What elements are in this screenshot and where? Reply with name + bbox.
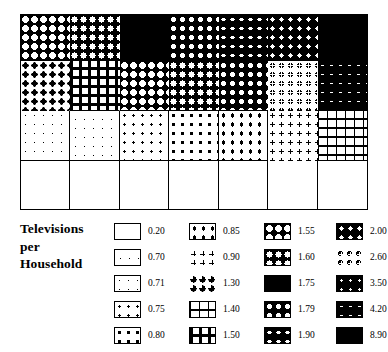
legend-swatch [189,327,216,344]
legend-item: 8.90 [336,322,388,348]
legend-item: 1.55 [264,218,340,244]
map-cell [70,111,119,161]
map-cell [268,111,317,161]
legend-value-label: 1.50 [223,330,240,340]
legend-item: 0.20 [114,218,190,244]
legend-item: 0.80 [114,322,190,348]
map-cell [268,161,317,209]
legend-swatch [264,223,291,240]
legend-item: 0.75 [114,296,190,322]
legend-swatch [264,327,291,344]
legend-value-label: 0.75 [148,304,165,314]
legend-item: 0.90 [189,244,265,270]
legend-value-label: 0.70 [148,252,165,262]
legend-item: 4.20 [336,296,388,322]
legend-swatch [114,223,141,240]
legend-swatch [114,275,141,292]
legend-column-1: 0.850.901.301.401.50 [189,218,265,348]
map-cell [120,161,169,209]
legend-value-label: 1.60 [298,252,315,262]
map-cell [120,61,169,111]
legend-swatch [336,327,363,344]
map-cell [21,161,70,209]
legend-value-label: 1.90 [298,330,315,340]
legend-column-3: 2.002.603.504.208.90 [336,218,388,348]
map-cell [120,111,169,161]
legend-item: 2.60 [336,244,388,270]
legend-item: 0.85 [189,218,265,244]
map-cell [219,15,268,61]
legend-item: 3.50 [336,270,388,296]
legend-value-label: 4.20 [370,304,387,314]
legend-title-line-2: per [20,238,116,256]
legend-item: 1.40 [189,296,265,322]
map-cell [21,15,70,61]
map-cell [318,61,367,111]
legend-swatch [189,275,216,292]
legend-swatch [189,223,216,240]
map-cell [268,61,317,111]
map-cell [318,111,367,161]
legend-item: 1.75 [264,270,340,296]
legend-value-label: 1.55 [298,226,315,236]
legend-swatch [264,275,291,292]
legend-swatch [189,249,216,266]
legend-item: 1.50 [189,322,265,348]
map-cell [318,15,367,61]
legend-value-label: 2.00 [370,226,387,236]
map-cell [268,15,317,61]
legend-item: 1.90 [264,322,340,348]
legend-value-label: 1.75 [298,278,315,288]
legend-item: 1.60 [264,244,340,270]
legend-value-label: 0.85 [223,226,240,236]
legend-value-label: 1.79 [298,304,315,314]
map-cell [70,161,119,209]
legend-title-line-1: Televisions [20,220,116,238]
legend-swatch [114,327,141,344]
legend-value-label: 1.30 [223,278,240,288]
legend-swatch [336,249,363,266]
legend-swatch [114,301,141,318]
figure-root: Televisions per Household 0.200.700.710.… [0,0,388,352]
map-cell [21,61,70,111]
legend-value-label: 2.60 [370,252,387,262]
legend-item: 1.30 [189,270,265,296]
legend-value-label: 0.20 [148,226,165,236]
legend-column-0: 0.200.700.710.750.80 [114,218,190,348]
legend-swatch [264,301,291,318]
map-grid [20,14,368,210]
legend: Televisions per Household 0.200.700.710.… [18,218,378,348]
map-cell [169,15,218,61]
legend-value-label: 0.71 [148,278,165,288]
map-cell [70,61,119,111]
map-cell [169,61,218,111]
map-cell [219,111,268,161]
legend-swatch [114,249,141,266]
legend-item: 0.70 [114,244,190,270]
legend-swatch [264,249,291,266]
legend-value-label: 1.40 [223,304,240,314]
map-cell [21,111,70,161]
map-cell [120,15,169,61]
legend-item: 0.71 [114,270,190,296]
map-cell [318,161,367,209]
legend-title-line-3: Household [20,255,116,273]
legend-value-label: 0.90 [223,252,240,262]
legend-swatch [336,275,363,292]
map-cell [219,161,268,209]
map-cell [169,161,218,209]
legend-swatch [336,301,363,318]
map-cell [219,61,268,111]
legend-title: Televisions per Household [20,220,116,273]
legend-swatch [189,301,216,318]
legend-value-label: 0.80 [148,330,165,340]
legend-swatch [336,223,363,240]
legend-value-label: 8.90 [370,330,387,340]
legend-value-label: 3.50 [370,278,387,288]
legend-item: 1.79 [264,296,340,322]
map-cell [70,15,119,61]
legend-column-2: 1.551.601.751.791.90 [264,218,340,348]
legend-item: 2.00 [336,218,388,244]
map-cell [169,111,218,161]
